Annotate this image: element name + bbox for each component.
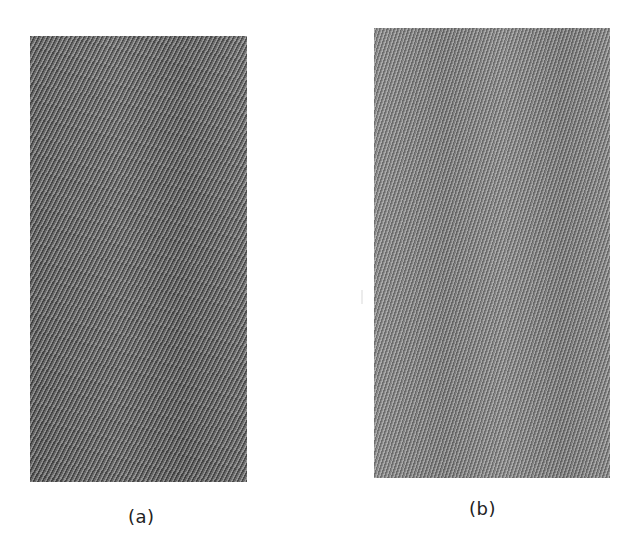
swatch-a-shading	[30, 36, 247, 482]
fabric-swatch-b	[374, 28, 610, 478]
fabric-comparison-figure: (a) (b)	[0, 0, 619, 549]
fabric-swatch-a	[30, 36, 247, 482]
scan-artifact	[361, 290, 363, 304]
swatch-b-shading	[374, 28, 610, 478]
panel-label-b: (b)	[469, 500, 496, 518]
panel-label-a: (a)	[128, 508, 155, 526]
